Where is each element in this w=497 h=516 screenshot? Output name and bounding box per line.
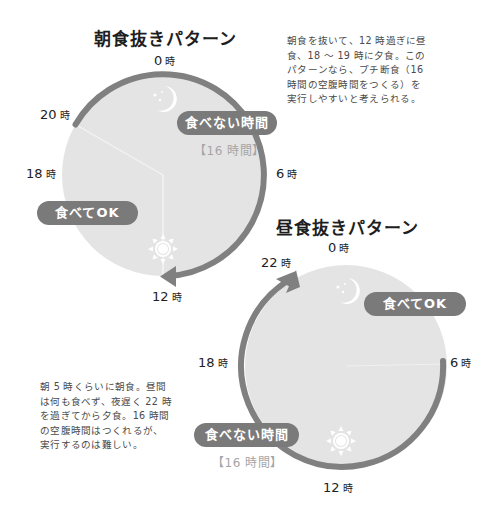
hour-number: 0 — [154, 53, 162, 68]
hour-number: 18 — [26, 166, 43, 181]
pattern2-title: 昼食抜きパターン — [276, 214, 419, 239]
hour-label-20: 20時 — [40, 107, 70, 122]
hour-unit: 時 — [218, 358, 228, 369]
eat-ok-badge: 食べてOK — [364, 292, 466, 316]
description-line: 実行しやすいと考えられる。 — [287, 92, 462, 107]
hour-unit: 時 — [172, 292, 182, 303]
hour-label-22: 22時 — [261, 255, 291, 270]
hour-unit: 時 — [165, 56, 175, 67]
hour-unit: 時 — [461, 358, 471, 369]
hour-unit: 時 — [339, 243, 349, 254]
eat-ok-badge: 食べてOK — [37, 201, 138, 225]
hour-label-6: 6時 — [276, 166, 297, 181]
pattern1-description: 朝食を抜いて、12 時過ぎに昼 食、18 〜 19 時に夕食。この パターンなら… — [287, 34, 462, 107]
hour-unit: 時 — [343, 483, 353, 494]
hour-number: 18 — [198, 355, 215, 370]
hour-label-6: 6時 — [450, 355, 471, 370]
hour-label-12: 12時 — [323, 480, 353, 495]
description-line: 時間の空腹時間をつくる）を — [287, 78, 462, 93]
hour-unit: 時 — [281, 258, 291, 269]
description-line: を過ぎてから夕食。16 時間 — [40, 409, 180, 424]
description-line: は何も食べず、夜遅く 22 時 — [40, 395, 180, 410]
description-line: 朝 5 時くらいに朝食。昼間 — [40, 380, 180, 395]
pattern2-description: 朝 5 時くらいに朝食。昼間 は何も食べず、夜遅く 22 時 を過ぎてから夕食。… — [40, 380, 180, 453]
description-line: 実行するのは難しい。 — [40, 438, 180, 453]
no-eat-time-badge: 食べない時間 — [177, 111, 277, 135]
description-line: パターンなら、プチ断食（16 — [287, 63, 462, 78]
hour-unit: 時 — [287, 169, 297, 180]
hour-label-12: 12時 — [152, 289, 182, 304]
hour-number: 22 — [261, 255, 278, 270]
no-eat-duration: 【16 時間】 — [212, 453, 283, 470]
hour-label-0: 0時 — [154, 53, 175, 68]
hour-unit: 時 — [60, 110, 70, 121]
hour-number: 12 — [323, 480, 340, 495]
no-eat-time-badge: 食べない時間 — [194, 423, 299, 447]
no-eat-duration: 【16 時間】 — [194, 141, 265, 158]
hour-number: 6 — [450, 355, 458, 370]
hour-number: 20 — [40, 107, 57, 122]
hour-label-0: 0時 — [328, 240, 349, 255]
sun-icon — [148, 234, 178, 264]
hour-number: 0 — [328, 240, 336, 255]
hour-label-18: 18時 — [198, 355, 228, 370]
hour-label-18: 18時 — [26, 166, 56, 181]
description-line: の空腹時間はつくれるが、 — [40, 424, 180, 439]
description-line: 食、18 〜 19 時に夕食。この — [287, 49, 462, 64]
pattern1-title: 朝食抜きパターン — [94, 25, 237, 50]
sun-icon — [326, 426, 356, 456]
description-line: 朝食を抜いて、12 時過ぎに昼 — [287, 34, 462, 49]
hour-unit: 時 — [46, 169, 56, 180]
hour-number: 12 — [152, 289, 169, 304]
hour-number: 6 — [276, 166, 284, 181]
